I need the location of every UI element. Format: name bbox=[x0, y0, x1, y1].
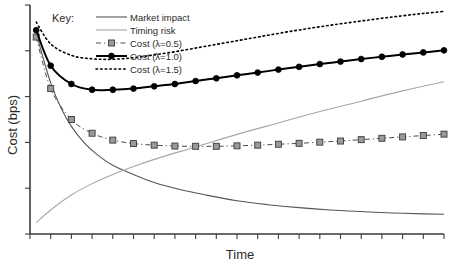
data-point-marker bbox=[358, 137, 364, 143]
data-point-marker bbox=[172, 143, 178, 149]
data-point-marker bbox=[193, 143, 199, 149]
data-point-marker bbox=[172, 81, 178, 87]
data-point-marker bbox=[68, 117, 74, 123]
chart-figure: Cost (bps) Time Key: Market impact Timin… bbox=[0, 0, 454, 265]
data-point-marker bbox=[296, 140, 302, 146]
data-point-marker bbox=[296, 64, 302, 70]
data-point-marker bbox=[69, 81, 75, 87]
data-point-marker bbox=[338, 59, 344, 65]
data-point-marker bbox=[33, 27, 39, 33]
data-point-marker bbox=[379, 135, 385, 141]
data-point-marker bbox=[234, 72, 240, 78]
data-point-marker bbox=[420, 133, 426, 139]
data-point-marker bbox=[420, 50, 426, 56]
data-point-marker bbox=[276, 67, 282, 73]
data-point-marker bbox=[131, 141, 137, 147]
data-point-marker bbox=[255, 70, 261, 76]
data-point-marker bbox=[193, 78, 199, 84]
data-point-marker bbox=[338, 138, 344, 144]
data-point-marker bbox=[400, 52, 406, 58]
legend-label-cost-lambda-15: Cost (λ=1.5) bbox=[130, 64, 182, 75]
data-point-marker bbox=[213, 75, 219, 81]
data-point-marker bbox=[89, 87, 95, 93]
legend-label-timing-risk: Timing risk bbox=[130, 25, 176, 36]
data-point-marker bbox=[48, 86, 54, 92]
chart-background bbox=[0, 0, 454, 265]
legend-marker-cost-lambda-10 bbox=[109, 53, 115, 59]
legend-label-market-impact: Market impact bbox=[130, 12, 190, 23]
legend-label-cost-lambda-05: Cost (λ=0.5) bbox=[130, 38, 182, 49]
data-point-marker bbox=[110, 137, 116, 143]
data-point-marker bbox=[151, 83, 157, 89]
data-point-marker bbox=[110, 87, 116, 93]
data-point-marker bbox=[48, 63, 54, 69]
legend-marker-cost-lambda-05 bbox=[109, 40, 115, 46]
data-point-marker bbox=[275, 141, 281, 147]
data-point-marker bbox=[358, 56, 364, 62]
data-point-marker bbox=[131, 86, 137, 92]
data-point-marker bbox=[317, 61, 323, 67]
data-point-marker bbox=[89, 130, 95, 136]
data-point-marker bbox=[379, 54, 385, 60]
cost-vs-time-line-chart: Cost (bps) Time Key: Market impact Timin… bbox=[0, 0, 454, 265]
y-axis-title: Cost (bps) bbox=[5, 95, 20, 155]
data-point-marker bbox=[151, 142, 157, 148]
data-point-marker bbox=[213, 143, 219, 149]
data-point-marker bbox=[441, 131, 447, 137]
legend-label-cost-lambda-10: Cost (λ=1.0) bbox=[130, 51, 182, 62]
data-point-marker bbox=[234, 143, 240, 149]
data-point-marker bbox=[400, 134, 406, 140]
data-point-marker bbox=[441, 47, 447, 53]
data-point-marker bbox=[317, 139, 323, 145]
data-point-marker bbox=[255, 142, 261, 148]
legend-title: Key: bbox=[52, 12, 74, 24]
x-axis-title: Time bbox=[226, 247, 254, 262]
